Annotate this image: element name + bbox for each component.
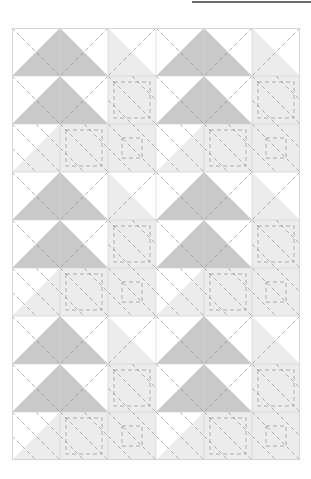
quilt-canvas [12, 28, 300, 460]
top-horizontal-rule [192, 1, 311, 3]
quilt-diagram [12, 28, 300, 460]
